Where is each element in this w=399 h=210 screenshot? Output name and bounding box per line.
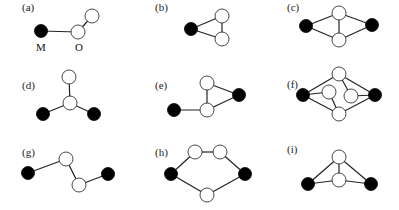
panel-label: (a)	[22, 1, 35, 14]
oxygen-atom-node	[215, 9, 229, 23]
panel-label: (h)	[155, 146, 168, 159]
oxygen-atom-node	[332, 67, 346, 81]
oxygen-atom-node	[332, 6, 346, 20]
metal-atom-node	[102, 168, 115, 181]
metal-atom-node	[302, 178, 315, 191]
panel-label: (g)	[22, 146, 35, 159]
metal-atom-node	[297, 89, 310, 102]
oxygen-atom-node	[63, 96, 77, 110]
metal-atom-node	[366, 19, 379, 32]
oxygen-atom-node	[200, 103, 214, 117]
metal-atom-node	[365, 178, 378, 191]
metal-atom-node	[168, 104, 181, 117]
oxygen-atom-node	[215, 32, 229, 46]
panel-f: (f)	[287, 67, 382, 121]
panel-label: (i)	[287, 143, 298, 156]
panel-d: (d)	[22, 70, 101, 121]
panel-label: (c)	[287, 1, 300, 14]
oxygen-atom-node	[332, 173, 346, 187]
panel-b: (b)	[155, 1, 229, 46]
panel-label: (b)	[155, 1, 168, 14]
cluster-structures-diagram: (a)MO(b)(c)(d)(e)(f)(g)(h)(i)	[0, 0, 399, 210]
metal-atom-node	[22, 167, 35, 180]
panel-g: (g)	[22, 146, 115, 192]
oxygen-atom-node	[71, 25, 85, 39]
oxygen-atom-node	[344, 89, 358, 103]
oxygen-atom-node	[72, 178, 86, 192]
atom-label: O	[75, 41, 83, 53]
oxygen-atom-node	[332, 150, 346, 164]
metal-atom-node	[300, 20, 313, 33]
panel-label: (d)	[22, 79, 35, 92]
panel-label: (e)	[155, 79, 168, 92]
oxygen-atom-node	[59, 152, 73, 166]
metal-atom-node	[35, 25, 48, 38]
oxygen-atom-node	[200, 188, 214, 202]
metal-atom-node	[369, 89, 382, 102]
oxygen-atom-node	[85, 9, 99, 23]
oxygen-atom-node	[213, 145, 227, 159]
metal-atom-node	[37, 108, 50, 121]
panel-e: (e)	[155, 76, 246, 117]
panel-a: (a)MO	[22, 1, 99, 53]
oxygen-atom-node	[332, 107, 346, 121]
panel-label: (f)	[287, 78, 298, 91]
oxygen-atom-node	[322, 85, 336, 99]
oxygen-atom-node	[200, 76, 214, 90]
metal-atom-node	[239, 168, 252, 181]
panel-h: (h)	[155, 145, 252, 202]
oxygen-atom-node	[332, 33, 346, 47]
metal-atom-node	[165, 168, 178, 181]
panel-c: (c)	[287, 1, 379, 47]
panel-i: (i)	[287, 143, 378, 191]
metal-atom-node	[233, 89, 246, 102]
oxygen-atom-node	[188, 145, 202, 159]
atom-label: M	[36, 41, 46, 53]
oxygen-atom-node	[62, 70, 76, 84]
metal-atom-node	[88, 108, 101, 121]
metal-atom-node	[185, 23, 198, 36]
